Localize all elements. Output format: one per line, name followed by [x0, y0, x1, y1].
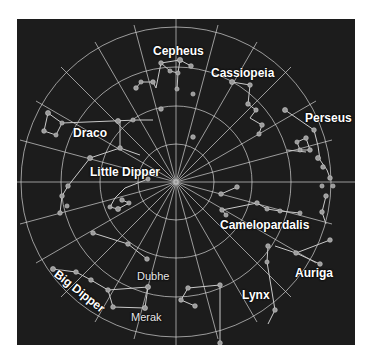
- label-camelopardalis: Camelopardalis: [220, 218, 309, 232]
- label-lynx: Lynx: [242, 288, 270, 302]
- label-cassiopeia: Cassiopeia: [211, 66, 274, 80]
- label-merak: Merak: [131, 311, 162, 323]
- star-chart: [17, 19, 355, 345]
- label-little-dipper: Little Dipper: [90, 165, 160, 179]
- label-auriga: Auriga: [295, 266, 333, 280]
- label-draco: Draco: [73, 126, 107, 140]
- polar-grid: [17, 19, 355, 345]
- label-perseus: Perseus: [305, 111, 352, 125]
- label-cepheus: Cepheus: [153, 44, 204, 58]
- star-map-graphic: [17, 19, 355, 345]
- label-dubhe: Dubhe: [137, 270, 169, 282]
